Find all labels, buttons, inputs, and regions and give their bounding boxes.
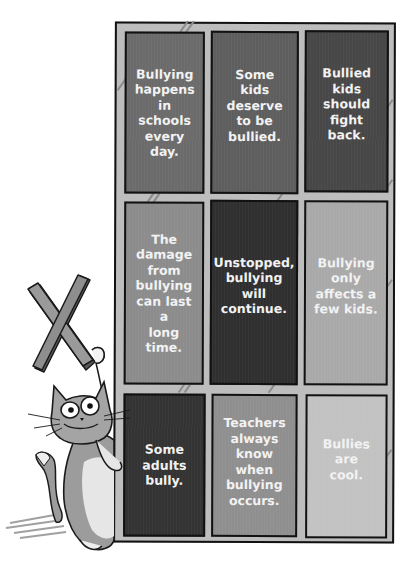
cat-illustration bbox=[0, 270, 140, 562]
statement-text: Someadultsbully. bbox=[142, 442, 186, 489]
statement-text: Thedamagefrombullyingcan last along time… bbox=[132, 231, 196, 355]
statement-text: Teachersalwaysknow whenbullyingoccurs. bbox=[219, 415, 289, 508]
statement-text: Bullyinghappensin schoolsevery day. bbox=[132, 66, 196, 159]
statement-card: Bullyingonlyaffects afew kids. bbox=[304, 200, 389, 385]
statement-text: Bullies arecool. bbox=[313, 436, 379, 483]
statement-card: Some kidsdeserveto bebullied. bbox=[210, 31, 299, 194]
statement-card: Teachersalwaysknow whenbullyingoccurs. bbox=[211, 394, 297, 537]
statement-card: Bullyinghappensin schoolsevery day. bbox=[124, 32, 205, 194]
statement-text: Bulliedkids shouldfight back. bbox=[312, 65, 380, 143]
statement-text: Unstopped,bullyingwillcontinue. bbox=[213, 254, 294, 316]
fact-or-myth-board: Bullyinghappensin schoolsevery day. Some… bbox=[113, 22, 396, 544]
statement-card: Unstopped,bullyingwillcontinue. bbox=[210, 200, 299, 385]
statement-card: Bulliedkids shouldfight back. bbox=[304, 30, 389, 192]
statement-text: Some kidsdeserveto bebullied. bbox=[218, 67, 290, 145]
statement-text: Bullyingonlyaffects afew kids. bbox=[314, 255, 378, 317]
x-mark-icon bbox=[28, 275, 95, 372]
statement-card: Bullies arecool. bbox=[305, 394, 388, 538]
